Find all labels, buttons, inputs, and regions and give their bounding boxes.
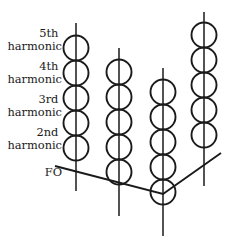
harmonic-column-3 <box>151 68 176 236</box>
row-label-harmonic-4: 4th harmonic <box>7 59 62 86</box>
harmonic-diagram: 5th harmonic 4th harmonic 3rd harmonic 2… <box>0 0 232 249</box>
harmonic-diagram-canvas: 5th harmonic 4th harmonic 3rd harmonic 2… <box>0 0 232 249</box>
row-label-harmonic-3: 3rd harmonic <box>7 92 62 119</box>
harmonic-column-2 <box>107 48 132 216</box>
row-label-harmonic-5: 5th harmonic <box>7 26 62 53</box>
harmonic-column-1 <box>64 23 89 191</box>
row-label-group: 5th harmonic 4th harmonic 3rd harmonic 2… <box>7 26 62 179</box>
row-label-harmonic-2: 2nd harmonic <box>7 125 62 152</box>
